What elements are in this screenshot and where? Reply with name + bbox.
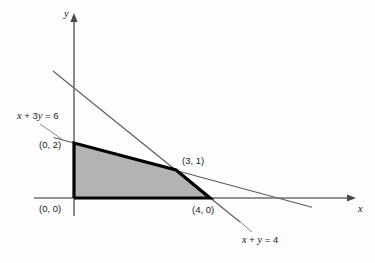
eq2-rhs: = 4 — [262, 234, 278, 245]
graph-figure: y x (0, 2) (0, 0) (3, 1) (4, 0) x + 3y =… — [0, 0, 375, 263]
vertex-label-origin: (0, 0) — [39, 203, 61, 214]
eq1-rhs: = 6 — [42, 110, 58, 121]
y-axis-arrowhead-icon — [70, 13, 77, 22]
x-axis-label: x — [357, 203, 363, 214]
eq2-mid: + — [247, 234, 258, 245]
x-axis-arrowhead-icon — [347, 194, 356, 201]
coordinate-plane-svg: y x (0, 2) (0, 0) (3, 1) (4, 0) x + 3y =… — [0, 0, 375, 263]
leader-line-x-plus-3y-label — [40, 124, 63, 140]
line-label-x-plus-3y-equals-6: x + 3y = 6 — [16, 110, 59, 121]
vertex-label-4-0: (4, 0) — [192, 204, 214, 215]
feasible-region-fill — [74, 143, 210, 198]
eq1-mid: + 3 — [22, 110, 38, 121]
vertex-label-0-2: (0, 2) — [39, 139, 61, 150]
line-label-x-plus-y-equals-4: x + y = 4 — [241, 234, 278, 245]
y-axis-label: y — [63, 8, 69, 19]
vertex-label-3-1: (3, 1) — [182, 155, 204, 166]
leader-line-x-plus-y-label — [237, 219, 252, 232]
